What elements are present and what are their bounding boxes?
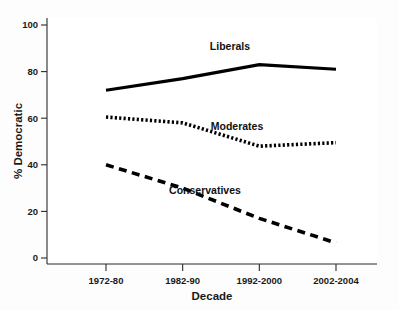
y-tick-label: 100 [22,19,38,30]
x-axis-ticks: 1972-801982-901992-20002002-2004 [89,264,360,286]
series-label-liberals: Liberals [210,40,250,52]
y-tick-label: 40 [27,159,38,170]
x-axis-title: Decade [192,290,233,302]
series-label-conservatives: Conservatives [169,184,241,196]
y-axis-title: % Democratic [12,102,24,179]
series-label-moderates: Moderates [211,120,264,132]
y-tick-label: 60 [27,113,38,124]
line-chart: 020406080100 1972-801982-901992-20002002… [0,0,399,310]
chart-container: 020406080100 1972-801982-901992-20002002… [0,0,399,310]
y-tick-label: 80 [27,66,38,77]
y-axis-ticks: 020406080100 [22,19,47,263]
y-tick-label: 20 [27,206,38,217]
plot-area-background [47,18,377,264]
y-tick-label: 0 [33,252,38,263]
x-tick-label: 1972-80 [89,275,124,286]
x-tick-label: 1992-2000 [237,275,282,286]
x-tick-label: 1982-90 [165,275,200,286]
x-tick-label: 2002-2004 [313,275,359,286]
